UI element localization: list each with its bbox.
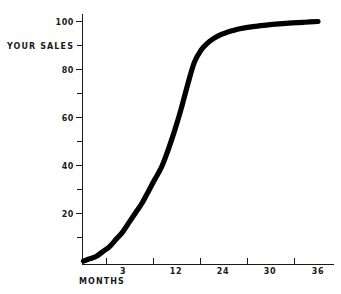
x-tick-label-24: 24 — [217, 267, 229, 276]
x-tick-label-30: 30 — [264, 267, 276, 276]
sales-growth-chart: 100 80 60 40 20 3 12 24 30 36 YOUR SALES… — [0, 0, 341, 294]
y-tick-label-80: 80 — [62, 66, 74, 75]
y-tick-label-40: 40 — [62, 162, 74, 171]
y-tick-label-60: 60 — [62, 114, 74, 123]
x-tick-label-12: 12 — [170, 267, 182, 276]
y-tick-label-100: 100 — [56, 18, 75, 27]
x-tick-label-3: 3 — [120, 267, 126, 276]
x-axis-title: MONTHS — [79, 277, 125, 286]
y-tick-label-20: 20 — [62, 210, 74, 219]
chart-canvas: 100 80 60 40 20 3 12 24 30 36 YOUR SALES… — [0, 0, 341, 294]
y-axis-title: YOUR SALES — [6, 42, 74, 51]
x-tick-label-36: 36 — [312, 267, 324, 276]
